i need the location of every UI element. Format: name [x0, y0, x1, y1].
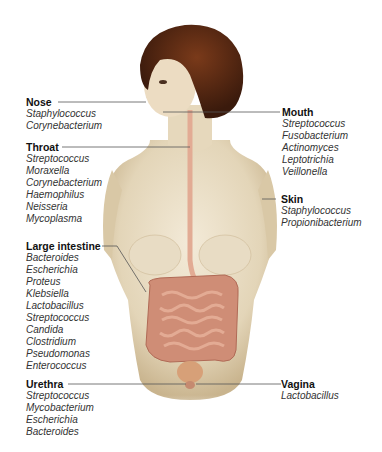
organism: Bacteroides — [26, 426, 94, 438]
site-vagina: Vagina Lactobacillus — [281, 378, 339, 402]
organism: Streptococcus — [26, 153, 102, 165]
organism: Veillonella — [282, 166, 348, 178]
organism: Propionibacterium — [281, 217, 362, 229]
organism: Streptococcus — [26, 390, 94, 402]
organism: Streptococcus — [26, 312, 101, 324]
organism: Staphylococcus — [281, 205, 362, 217]
organism: Corynebacterium — [26, 177, 102, 189]
site-title: Large intestine — [26, 240, 101, 252]
organism: Escherichia — [26, 414, 94, 426]
organism: Corynebacterium — [26, 120, 102, 132]
organism: Moraxella — [26, 165, 102, 177]
organism: Actinomyces — [282, 142, 348, 154]
organism: Haemophilus — [26, 189, 102, 201]
organism: Bacteroides — [26, 252, 101, 264]
bladder — [177, 361, 203, 383]
site-nose: Nose Staphylococcus Corynebacterium — [26, 96, 102, 132]
organism: Mycobacterium — [26, 402, 94, 414]
organism: Mycoplasma — [26, 213, 102, 225]
site-title: Throat — [26, 141, 102, 153]
organism: Proteus — [26, 276, 101, 288]
site-mouth: Mouth Streptococcus Fusobacterium Actino… — [282, 106, 348, 178]
microbiota-body-diagram: Nose Staphylococcus Corynebacterium Thro… — [0, 0, 382, 452]
site-title: Nose — [26, 96, 102, 108]
organism: Fusobacterium — [282, 130, 348, 142]
organism: Pseudomonas — [26, 348, 101, 360]
site-skin: Skin Staphylococcus Propionibacterium — [281, 193, 362, 229]
organism: Klebsiella — [26, 288, 101, 300]
site-urethra: Urethra Streptococcus Mycobacterium Esch… — [26, 378, 94, 438]
organism: Leptotrichia — [282, 154, 348, 166]
organism: Candida — [26, 324, 101, 336]
site-title: Vagina — [281, 378, 339, 390]
organism: Enterococcus — [26, 360, 101, 372]
organism: Clostridium — [26, 336, 101, 348]
organism: Lactobacillus — [26, 300, 101, 312]
organism: Streptococcus — [282, 118, 348, 130]
organism: Staphylococcus — [26, 108, 102, 120]
organism: Escherichia — [26, 264, 101, 276]
organism: Neisseria — [26, 201, 102, 213]
site-title: Mouth — [282, 106, 348, 118]
site-throat: Throat Streptococcus Moraxella Corynebac… — [26, 141, 102, 225]
site-title: Urethra — [26, 378, 94, 390]
site-large-intestine: Large intestine Bacteroides Escherichia … — [26, 240, 101, 372]
site-title: Skin — [281, 193, 362, 205]
organism: Lactobacillus — [281, 390, 339, 402]
